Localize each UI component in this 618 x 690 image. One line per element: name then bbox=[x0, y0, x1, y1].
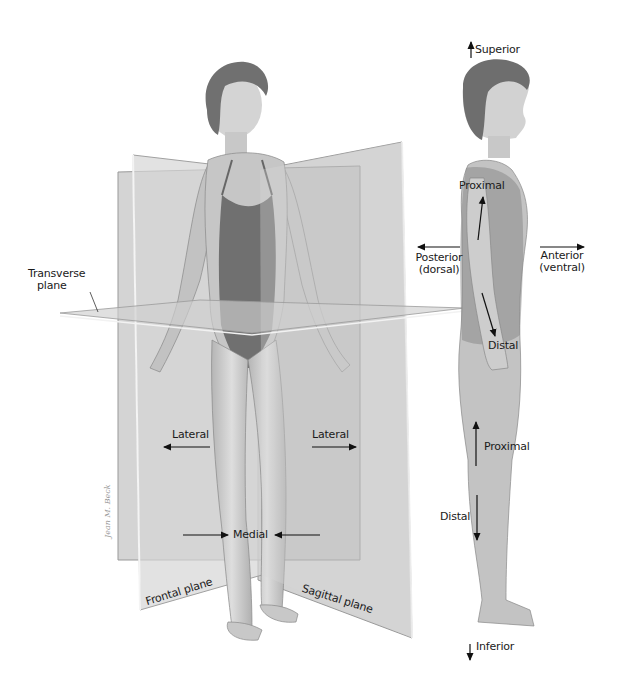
posterior-label: Posterior (dorsal) bbox=[415, 252, 463, 276]
artist-signature: Jean M. Beck bbox=[103, 484, 112, 538]
posterior-label-line2: (dorsal) bbox=[415, 264, 463, 276]
anatomy-diagram: Transverse plane Lateral Lateral Medial … bbox=[0, 0, 618, 690]
distal-leg-label: Distal bbox=[440, 511, 470, 523]
transverse-plane-label: Transverse plane bbox=[28, 268, 85, 292]
transverse-leader-line bbox=[90, 292, 98, 312]
proximal-leg-label: Proximal bbox=[484, 441, 530, 453]
transverse-label-line2: plane bbox=[28, 280, 85, 292]
anterior-label-line2: (ventral) bbox=[537, 262, 587, 274]
proximal-arm-label: Proximal bbox=[459, 180, 505, 192]
frontal-plane-front-overlay bbox=[260, 142, 412, 638]
anterior-label: Anterior (ventral) bbox=[537, 250, 587, 274]
superior-label: Superior bbox=[475, 44, 520, 56]
lateral-right-label: Lateral bbox=[312, 429, 349, 441]
lateral-left-label: Lateral bbox=[172, 429, 209, 441]
inferior-label: Inferior bbox=[476, 641, 514, 653]
distal-arm-label: Distal bbox=[488, 340, 518, 352]
medial-label: Medial bbox=[233, 529, 268, 541]
